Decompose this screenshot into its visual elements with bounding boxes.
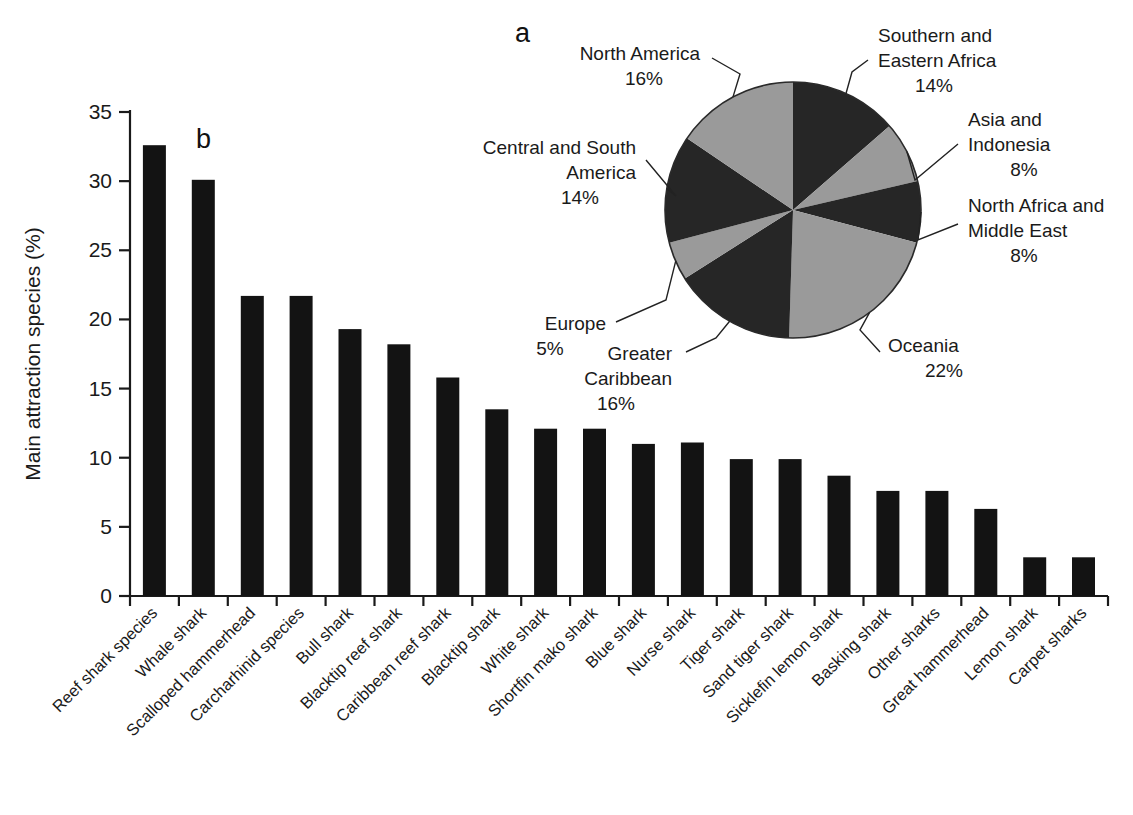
pie-callout-southern-eastern-africa: Southern andEastern Africa14% (846, 25, 997, 96)
panel-a-pie-chart: a Southern andEastern Africa14%Asia andI… (483, 18, 1104, 414)
pie-callout-oceania: Oceania22% (860, 313, 963, 381)
pie-leader-line (918, 212, 958, 240)
bar (436, 378, 459, 597)
y-tick-label: 35 (89, 100, 112, 123)
bar (290, 296, 313, 596)
pie-callout-asia-and-indonesia: Asia andIndonesia8% (907, 109, 1051, 180)
y-tick-label: 25 (89, 238, 112, 261)
bar (241, 296, 264, 596)
pie-callout-line: Eastern Africa (878, 50, 997, 71)
pie-callout-line: North Africa and (968, 195, 1104, 216)
pie-callout-line: 16% (597, 393, 635, 414)
bar (485, 409, 508, 596)
pie-callout-line: Asia and (968, 109, 1042, 130)
pie-callout-line: Middle East (968, 220, 1068, 241)
y-tick-label: 5 (100, 515, 112, 538)
y-tick-label: 10 (89, 446, 112, 469)
bar (534, 429, 557, 596)
pie-callout-line: Oceania (888, 335, 959, 356)
bar (1072, 557, 1095, 596)
y-tick-label: 20 (89, 307, 112, 330)
y-tick-label: 0 (100, 584, 112, 607)
pie-leader-line (860, 313, 880, 352)
pie-callout-line: 8% (1010, 159, 1038, 180)
panel-b-letter: b (196, 124, 211, 154)
bar (974, 509, 997, 596)
bar (730, 459, 753, 596)
bar (925, 491, 948, 596)
bar (681, 443, 704, 597)
bar (143, 145, 166, 596)
pie-callout-north-africa-middle-east: North Africa andMiddle East8% (918, 195, 1104, 266)
bar (1023, 557, 1046, 596)
pie-callout-line: Greater (608, 343, 673, 364)
pie-leader-line (846, 60, 868, 94)
x-category-label: Sand tiger shark (699, 603, 797, 701)
pie-callout-line: 22% (925, 360, 963, 381)
pie-slices (665, 82, 921, 338)
panel-a-letter: a (515, 18, 531, 48)
pie-callout-line: Europe (545, 313, 606, 334)
pie-callout-line: North America (580, 43, 701, 64)
pie-callout-line: Central and South (483, 137, 636, 158)
pie-leader-line (616, 261, 676, 322)
bar (339, 329, 362, 596)
pie-callout-line: 8% (1010, 245, 1038, 266)
pie-callout-line: America (566, 162, 636, 183)
bar (779, 459, 802, 596)
y-axis-title: Main attraction species (%) (21, 227, 44, 480)
pie-callout-greater-caribbean: GreaterCaribbean16% (584, 321, 729, 414)
figure-container: a Southern andEastern Africa14%Asia andI… (0, 0, 1133, 815)
pie-callout-line: Caribbean (584, 368, 672, 389)
pie-leader-line (686, 321, 730, 352)
pie-callout-line: 14% (915, 75, 953, 96)
bar (632, 444, 655, 596)
pie-callout-north-america: North America16% (580, 43, 740, 97)
bar (387, 344, 410, 596)
pie-callout-line: 5% (536, 338, 564, 359)
x-axis-category-labels: Reef shark speciesWhale sharkScalloped h… (49, 603, 1090, 739)
y-tick-label: 15 (89, 377, 112, 400)
bar (192, 180, 215, 596)
y-tick-label: 30 (89, 169, 112, 192)
bar (828, 476, 851, 596)
y-axis-ticks: 05101520253035 (89, 100, 130, 607)
bar (583, 429, 606, 596)
pie-callout-line: 16% (625, 68, 663, 89)
pie-callout-line: Southern and (878, 25, 992, 46)
bar (876, 491, 899, 596)
x-axis-ticks (130, 596, 1108, 606)
pie-leader-line (712, 58, 740, 97)
figure-svg: a Southern andEastern Africa14%Asia andI… (0, 0, 1133, 815)
pie-callout-line: 14% (561, 187, 599, 208)
pie-callout-line: Indonesia (968, 134, 1051, 155)
pie-callout-central-south-america: Central and SouthAmerica14% (483, 137, 676, 208)
